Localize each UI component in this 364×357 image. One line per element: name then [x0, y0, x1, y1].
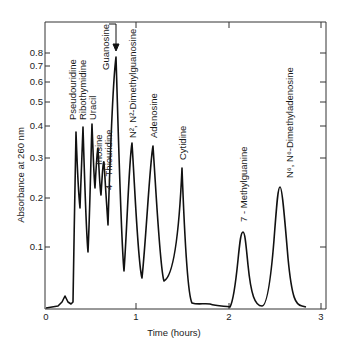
label-guanosine: Guanosine: [100, 24, 111, 70]
y-tick-0.7: 0.7: [30, 60, 43, 71]
x-axis-ticks: [136, 303, 321, 309]
chromatogram-chart: 0.8 0.7 0.6 0.5 0.4 0.3 0.2 0.1 0 1 2 3 …: [0, 0, 364, 357]
x-tick-2: 2: [226, 311, 231, 322]
label-7-methylguanine: 7 - Methylguanine: [238, 146, 249, 222]
y-axis-ticks-right: [320, 53, 326, 247]
x-axis-title: Time (hours): [147, 327, 201, 338]
y-tick-0.8: 0.8: [30, 47, 43, 58]
x-tick-0: 0: [43, 311, 48, 322]
label-4-thiouridine: 4 - Thiouridine: [103, 129, 114, 190]
label-dimethylguanosine: N², N²-Dimethylguanosine: [127, 29, 138, 138]
y-tick-0.3: 0.3: [30, 152, 43, 163]
y-axis-ticks: [45, 53, 50, 247]
label-uracil: Uracil: [87, 96, 98, 120]
x-tick-1: 1: [133, 311, 138, 322]
y-axis-title: Absorbance at 260 nm: [15, 127, 26, 223]
y-tick-0.4: 0.4: [30, 120, 43, 131]
x-axis-tick-labels: 0 1 2 3: [43, 311, 323, 322]
y-tick-0.2: 0.2: [30, 192, 43, 203]
x-tick-3: 3: [318, 311, 323, 322]
label-adenosine: Adenosine: [148, 93, 159, 138]
y-tick-0.6: 0.6: [30, 76, 43, 87]
y-axis-tick-labels: 0.8 0.7 0.6 0.5 0.4 0.3 0.2 0.1: [30, 47, 43, 252]
y-tick-0.5: 0.5: [30, 96, 43, 107]
x-axis-ticks-top: [136, 22, 321, 28]
label-cytidine: Cytidine: [177, 126, 188, 160]
label-dimethyladenosine: N⁶, N⁶-Dimethyladenosine: [284, 67, 295, 178]
y-tick-0.1: 0.1: [30, 241, 43, 252]
